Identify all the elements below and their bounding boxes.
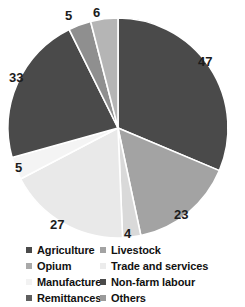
legend-item-label: Manufacture: [37, 277, 101, 288]
legend-item-label: Others: [111, 293, 146, 304]
legend-item-label: Opium: [37, 261, 71, 272]
legend-row: ManufactureNon-farm labour: [0, 274, 245, 290]
pie-chart: 472342753356: [0, 0, 245, 240]
legend-swatch-others: [100, 295, 106, 301]
slice-value-opium: 4: [124, 227, 131, 240]
legend-swatch-non-farm-labour: [100, 279, 106, 285]
legend-swatch-manufacture: [26, 279, 32, 285]
legend-item[interactable]: Opium: [0, 258, 100, 274]
legend-swatch-agriculture: [26, 247, 32, 253]
legend-swatch-remittances: [26, 295, 32, 301]
legend-item-label: Non-farm labour: [111, 277, 195, 288]
legend-item-label: Agriculture: [37, 245, 95, 256]
slice-value-manufacture: 5: [15, 161, 22, 174]
pie-chart-canvas: [0, 0, 245, 240]
legend-row: AgricultureLivestock: [0, 242, 245, 258]
legend-item-label: Trade and services: [111, 261, 208, 272]
slice-value-trade: 27: [50, 218, 64, 231]
legend-item-label: Remittances: [37, 293, 101, 304]
legend-swatch-trade-and-services: [100, 263, 106, 269]
legend-item[interactable]: Trade and services: [100, 258, 219, 274]
legend-item[interactable]: Non-farm labour: [100, 274, 219, 290]
legend-item[interactable]: Others: [100, 290, 219, 306]
legend-item[interactable]: Manufacture: [0, 274, 100, 290]
legend-swatch-livestock: [100, 247, 106, 253]
legend-swatch-opium: [26, 263, 32, 269]
slice-value-agriculture: 47: [198, 55, 212, 68]
legend-row: OpiumTrade and services: [0, 258, 245, 274]
chart-legend: AgricultureLivestockOpiumTrade and servi…: [0, 240, 245, 307]
legend-item-label: Livestock: [111, 245, 161, 256]
legend-item[interactable]: Livestock: [100, 242, 219, 258]
slice-value-livestock: 23: [174, 208, 188, 221]
legend-row: RemittancesOthers: [0, 290, 245, 306]
slice-value-others: 6: [93, 6, 100, 19]
slice-value-remittances: 5: [65, 9, 72, 22]
legend-item[interactable]: Remittances: [0, 290, 100, 306]
slice-value-nonfarm: 33: [9, 71, 23, 84]
legend-item[interactable]: Agriculture: [0, 242, 100, 258]
